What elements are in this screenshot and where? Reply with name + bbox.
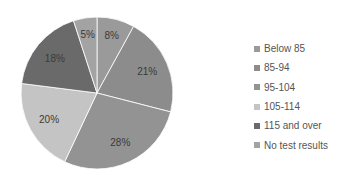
legend-swatch [254, 84, 260, 90]
legend-swatch [254, 142, 260, 148]
legend-swatch [254, 104, 260, 110]
legend-item-below-85: Below 85 [254, 39, 328, 58]
legend-label: 85-94 [264, 62, 290, 73]
legend-swatch [254, 123, 260, 129]
legend-label: 95-104 [264, 82, 295, 93]
pie-slices [21, 17, 173, 169]
slice-percent-label: 28% [110, 137, 130, 148]
chart-legend: Below 85 85-94 95-104 105-114 115 and ov… [254, 39, 328, 155]
slice-percent-label: 20% [39, 114, 59, 125]
slice-percent-label: 5% [81, 29, 96, 40]
legend-label: No test results [264, 140, 328, 151]
slice-percent-label: 8% [105, 30, 120, 41]
legend-label: 105-114 [264, 101, 300, 112]
legend-item-95-104: 95-104 [254, 78, 328, 97]
slice-percent-label: 18% [45, 53, 65, 64]
legend-label: Below 85 [264, 43, 305, 54]
legend-label: 115 and over [264, 120, 322, 131]
legend-item-no-test-results: No test results [254, 135, 328, 154]
legend-item-85-94: 85-94 [254, 58, 328, 77]
legend-item-105-114: 105-114 [254, 97, 328, 116]
legend-item-115-and-over: 115 and over [254, 116, 328, 135]
legend-swatch [254, 65, 260, 71]
slice-percent-label: 21% [137, 66, 157, 77]
legend-swatch [254, 46, 260, 52]
